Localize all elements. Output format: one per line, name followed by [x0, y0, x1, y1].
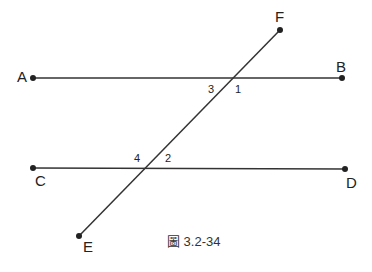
- point-f-dot: [277, 27, 283, 33]
- angle-4-label: 4: [134, 152, 140, 164]
- label-c: C: [35, 172, 46, 189]
- point-c-dot: [30, 165, 36, 171]
- label-b: B: [336, 58, 346, 75]
- label-d: D: [346, 174, 357, 191]
- angle-2-label: 2: [165, 152, 171, 164]
- line-cd: [33, 168, 345, 169]
- label-e: E: [83, 238, 93, 255]
- point-a-dot: [30, 75, 36, 81]
- angle-1-label: 1: [235, 83, 241, 95]
- figure-caption: 圖 3.2-34: [167, 234, 220, 249]
- label-f: F: [275, 8, 284, 25]
- geometry-figure: A B C D E F 1 3 4 2 圖 3.2-34: [0, 0, 372, 272]
- angle-3-label: 3: [208, 83, 214, 95]
- label-a: A: [17, 68, 27, 85]
- line-ef: [79, 30, 280, 236]
- point-e-dot: [76, 233, 82, 239]
- point-b-dot: [339, 75, 345, 81]
- point-d-dot: [342, 166, 348, 172]
